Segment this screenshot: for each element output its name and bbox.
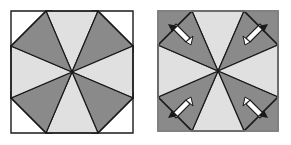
figure-container <box>0 0 291 145</box>
figure-unfolded <box>0 0 146 145</box>
octagon-body-unfolded <box>11 11 133 133</box>
figure-unfolded-svg <box>0 0 146 145</box>
figure-folded <box>146 0 291 145</box>
figure-folded-svg <box>146 0 291 145</box>
